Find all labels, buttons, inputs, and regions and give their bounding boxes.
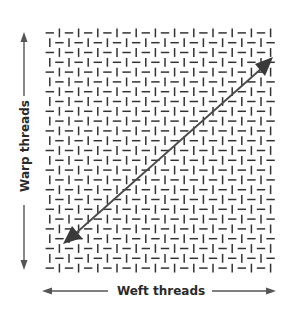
weave-diagram: Warp threads Weft threads	[0, 0, 294, 311]
warp-arrowhead-down	[21, 260, 28, 270]
weft-label: Weft threads	[117, 284, 205, 298]
warp-arrowhead-up	[21, 32, 28, 42]
weft-arrowhead-right	[266, 288, 276, 295]
weft-arrowhead-left	[42, 288, 52, 295]
warp-label: Warp threads	[18, 100, 32, 192]
